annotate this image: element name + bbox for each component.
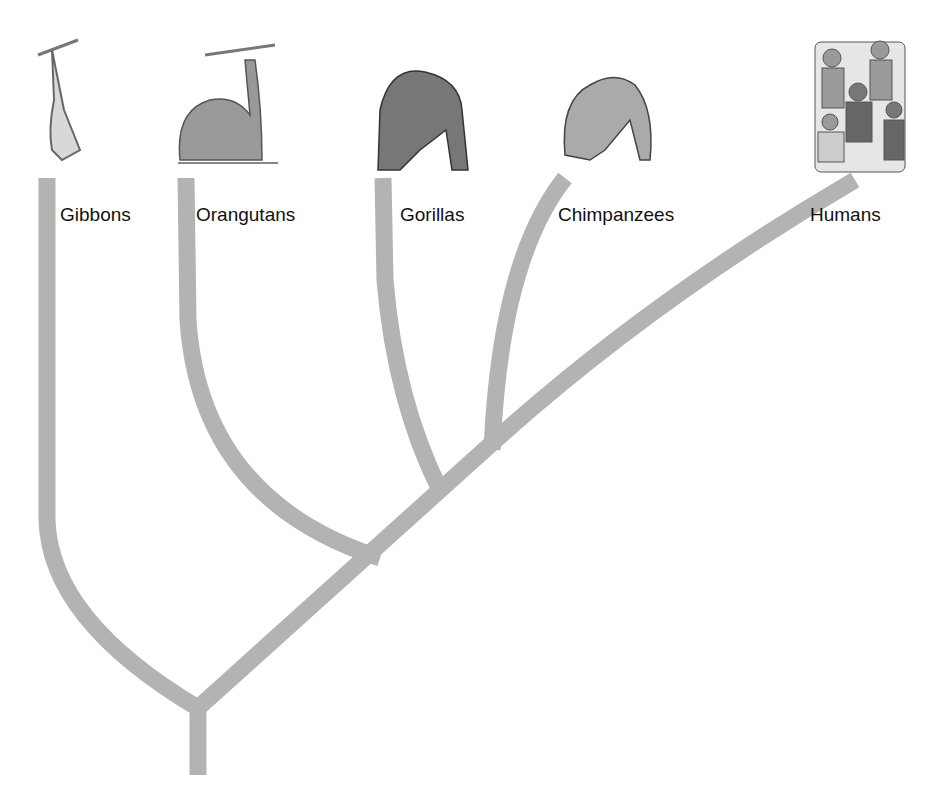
label-gibbons: Gibbons	[60, 204, 131, 226]
chimpanzee-illustration	[564, 78, 651, 161]
branch-orangutans	[186, 178, 380, 558]
phylogenetic-tree-diagram: Gibbons Orangutans Gorillas Chimpanzees …	[0, 0, 946, 804]
humans-photo	[815, 41, 905, 172]
orangutan-illustration	[178, 45, 278, 163]
label-humans: Humans	[810, 204, 881, 226]
gibbon-illustration	[38, 40, 80, 160]
tree-branches	[0, 0, 946, 804]
label-gorillas: Gorillas	[400, 204, 464, 226]
branch-gibbons	[47, 178, 198, 708]
label-orangutans: Orangutans	[196, 204, 295, 226]
gorilla-illustration	[378, 71, 468, 170]
label-chimpanzees: Chimpanzees	[558, 204, 674, 226]
